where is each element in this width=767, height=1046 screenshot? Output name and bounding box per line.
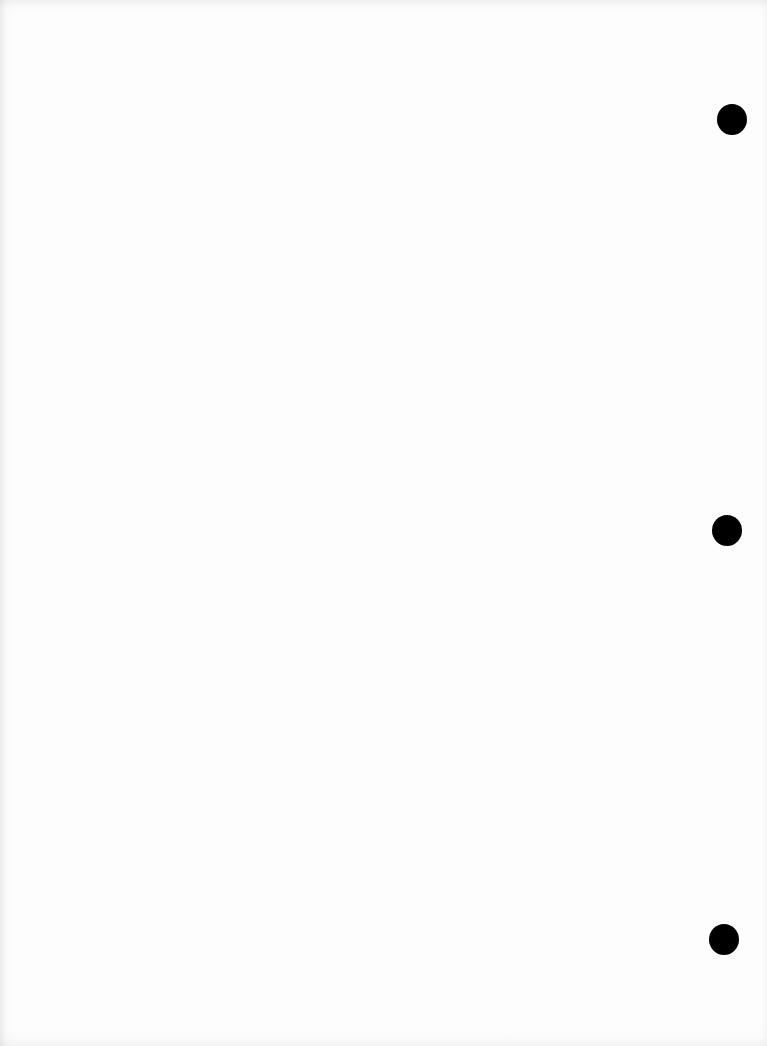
punch-hole-bottom xyxy=(709,924,739,955)
blank-scanned-page xyxy=(0,0,767,1046)
punch-hole-top xyxy=(717,104,747,135)
punch-hole-middle xyxy=(712,515,742,546)
